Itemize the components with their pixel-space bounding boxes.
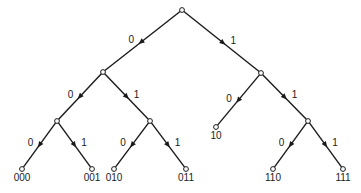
- tree-node-10: [214, 125, 219, 130]
- edge-label: 0: [279, 137, 285, 148]
- edge-label: 1: [134, 89, 140, 100]
- edge-label: 0: [129, 34, 135, 45]
- tree-node-root: [180, 8, 185, 13]
- edge-label: 0: [68, 89, 74, 100]
- tree-node-11: [306, 119, 311, 124]
- tree-node-110: [271, 167, 276, 172]
- edge-label: 0: [28, 137, 34, 148]
- edge-label: 1: [332, 137, 338, 148]
- codeword-label: 001: [84, 172, 101, 183]
- binary-code-tree: 01010101010110000001010011110111: [0, 0, 361, 193]
- edge-label: 1: [292, 89, 298, 100]
- tree-node-011: [184, 167, 189, 172]
- codeword-label: 000: [14, 172, 31, 183]
- edge-label: 1: [230, 35, 236, 46]
- tree-node-1: [259, 71, 264, 76]
- codeword-label: 010: [106, 172, 123, 183]
- codeword-label: 10: [210, 130, 222, 141]
- tree-node-01: [148, 119, 153, 124]
- tree-node-001: [90, 167, 95, 172]
- codeword-label: 111: [335, 172, 351, 183]
- codeword-label: 110: [265, 172, 281, 183]
- codeword-label: 011: [178, 172, 194, 183]
- tree-node-111: [341, 167, 346, 172]
- tree-node-00: [55, 119, 60, 124]
- tree-node-010: [112, 167, 117, 172]
- edge-label: 0: [120, 137, 126, 148]
- edge-label: 1: [175, 137, 181, 148]
- edge-label: 1: [81, 137, 87, 148]
- edge-label: 0: [226, 93, 232, 104]
- labels-layer: 01010101010110000001010011110111: [14, 34, 351, 183]
- tree-node-000: [20, 167, 25, 172]
- tree-node-0: [101, 70, 106, 75]
